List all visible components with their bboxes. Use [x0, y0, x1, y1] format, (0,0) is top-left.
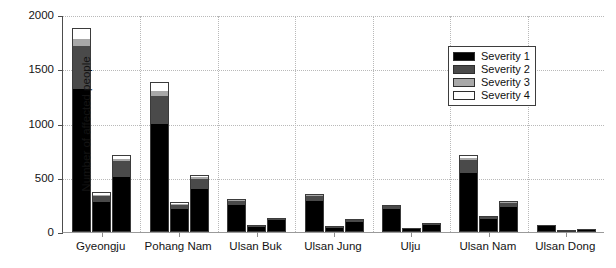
legend-swatch-icon [453, 52, 475, 61]
bar-segment [72, 28, 91, 39]
y-axis-tick-label: 2000 [8, 10, 54, 22]
x-axis-tick [179, 232, 180, 237]
bar-segment [305, 201, 324, 232]
bar-stack [577, 229, 596, 232]
bar-segment [577, 230, 596, 232]
legend-item: Severity 2 [453, 63, 530, 76]
bar-stack [247, 225, 266, 232]
gridline-vertical [295, 16, 296, 232]
x-axis-tick-label: Pohang Nam [145, 241, 212, 253]
x-axis-tick-label: Ulsan Dong [535, 241, 595, 253]
bar-segment [382, 209, 401, 232]
gridline-horizontal [63, 179, 604, 180]
legend-item: Severity 1 [453, 50, 530, 63]
gridline-horizontal [63, 16, 604, 17]
bar-stack [112, 155, 131, 232]
bar-segment [422, 225, 441, 232]
chart-figure: 0500100015002000 Number of affected peop… [0, 0, 616, 268]
y-axis-tick [58, 70, 63, 71]
x-axis-tick [102, 232, 103, 237]
y-axis-tick [58, 16, 63, 17]
x-axis-tick-label: Ulju [401, 241, 421, 253]
y-axis-tick [58, 233, 63, 234]
bar-segment [267, 220, 286, 232]
bar-stack [537, 225, 556, 232]
y-axis-tick-label: 0 [8, 227, 54, 239]
x-axis-tick-label: Ulsan Jung [304, 241, 362, 253]
legend-label: Severity 4 [481, 90, 530, 101]
y-axis-tick-label: 500 [8, 173, 54, 185]
bar-segment [499, 207, 518, 232]
legend-swatch-icon [453, 65, 475, 74]
bar-segment [112, 161, 131, 176]
bar-segment [150, 82, 169, 91]
y-axis-tick-label: 1000 [8, 119, 54, 131]
bar-segment [190, 179, 209, 189]
bar-segment [537, 226, 556, 232]
bar-stack [459, 155, 478, 232]
bar-stack [150, 82, 169, 232]
x-axis-tick-label: Gyeongju [76, 241, 125, 253]
legend-item: Severity 4 [453, 89, 530, 102]
bar-stack [170, 202, 189, 232]
legend-label: Severity 2 [481, 64, 530, 75]
y-axis-tick [58, 179, 63, 180]
bar-segment [190, 189, 209, 232]
x-axis-label-container: GyeongjuPohang NamUlsan BukUlsan JungUlj… [62, 239, 604, 259]
x-axis-tick [566, 232, 567, 237]
x-axis-tick [489, 232, 490, 237]
x-axis-tick [411, 232, 412, 237]
bar-segment [92, 202, 111, 232]
y-axis-tick-label: 1500 [8, 64, 54, 76]
bar-stack [499, 201, 518, 232]
gridline-vertical [373, 16, 374, 232]
bar-stack [422, 223, 441, 232]
bar-segment [112, 177, 131, 232]
legend-label: Severity 3 [481, 77, 530, 88]
legend-item: Severity 3 [453, 76, 530, 89]
y-axis-tick [58, 125, 63, 126]
bar-segment [459, 160, 478, 173]
legend-label: Severity 1 [481, 51, 530, 62]
bar-segment [459, 173, 478, 232]
bar-stack [190, 175, 209, 232]
gridline-vertical [218, 16, 219, 232]
bar-stack [92, 192, 111, 232]
bar-segment [479, 219, 498, 232]
bar-segment [345, 222, 364, 232]
gridline-horizontal [63, 125, 604, 126]
bar-stack [267, 218, 286, 232]
x-axis-tick [334, 232, 335, 237]
bar-stack [227, 199, 246, 232]
bar-stack [382, 205, 401, 232]
bar-segment [170, 209, 189, 232]
gridline-vertical [140, 16, 141, 232]
bar-stack [345, 219, 364, 232]
bar-stack [305, 194, 324, 232]
bar-stack [479, 216, 498, 232]
legend-swatch-icon [453, 91, 475, 100]
bar-segment [227, 205, 246, 232]
bar-segment [150, 96, 169, 124]
x-axis-tick-label: Ulsan Nam [459, 241, 516, 253]
y-axis-title: Number of affected people [80, 56, 92, 191]
x-axis-tick [257, 232, 258, 237]
x-axis-tick-label: Ulsan Buk [229, 241, 281, 253]
legend-swatch-icon [453, 78, 475, 87]
chart-legend: Severity 1Severity 2Severity 3Severity 4 [448, 46, 536, 106]
bar-segment [150, 124, 169, 232]
